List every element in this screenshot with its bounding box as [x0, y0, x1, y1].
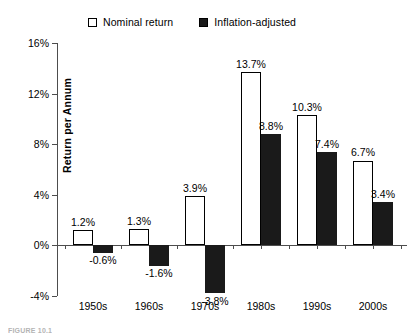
- x-tick: [345, 245, 346, 249]
- figure-caption: FIGURE 10.1: [8, 327, 52, 333]
- y-tick-label-8: 8%: [34, 139, 49, 150]
- x-axis-label-2000s: 2000s: [359, 301, 388, 312]
- x-tick-minor: [317, 245, 318, 249]
- x-tick-minor: [373, 245, 374, 249]
- bar-label-adjusted-1990s: 7.4%: [315, 139, 339, 150]
- bar-nominal-1980s: [241, 72, 261, 245]
- x-tick: [177, 245, 178, 249]
- y-tick-8: 8%: [52, 144, 57, 145]
- x-tick-minor: [261, 245, 262, 249]
- x-axis-label-1970s: 1970s: [191, 301, 220, 312]
- x-axis-label-1950s: 1950s: [79, 301, 108, 312]
- bar-nominal-1950s: [73, 230, 93, 245]
- x-tick: [289, 245, 290, 249]
- chart-legend: Nominal return Inflation-adjusted: [88, 14, 296, 30]
- bar-nominal-1970s: [185, 196, 205, 245]
- x-tick: [65, 245, 66, 249]
- y-tick-label-neg4: -4%: [30, 291, 49, 302]
- x-tick: [233, 245, 234, 249]
- bar-adjusted-1990s: [317, 152, 337, 246]
- y-tick-label-16: 16%: [28, 38, 49, 49]
- y-tick-12: 12%: [52, 94, 57, 95]
- y-axis-line: [57, 43, 58, 296]
- bar-label-adjusted-1960s: -1.6%: [145, 268, 172, 279]
- y-tick-label-0: 0%: [34, 240, 49, 251]
- plot-area: Return per Annum 16% 12% 8% 4% 0% -4%: [57, 43, 407, 296]
- bar-adjusted-1950s: [93, 245, 113, 253]
- y-axis-title: Return per Annum: [61, 78, 73, 173]
- bar-label-nominal-1970s: 3.9%: [183, 183, 207, 194]
- bar-label-nominal-1960s: 1.3%: [127, 216, 151, 227]
- bar-label-nominal-1990s: 10.3%: [292, 102, 322, 113]
- bar-adjusted-1970s: [205, 245, 225, 293]
- bar-label-adjusted-2000s: 3.4%: [371, 189, 395, 200]
- bar-label-nominal-1950s: 1.2%: [71, 217, 95, 228]
- x-tick: [401, 245, 402, 249]
- open-square-icon: [88, 18, 97, 27]
- bar-label-adjusted-1950s: -0.6%: [89, 255, 116, 266]
- x-tick: [121, 245, 122, 249]
- y-tick-16: 16%: [52, 43, 57, 44]
- y-tick-neg4: -4%: [52, 296, 57, 297]
- x-axis-label-1990s: 1990s: [303, 301, 332, 312]
- y-tick-label-12: 12%: [28, 88, 49, 99]
- legend-label-inflation-adjusted: Inflation-adjusted: [214, 17, 296, 28]
- y-tick-label-4: 4%: [34, 189, 49, 200]
- x-axis-label-1980s: 1980s: [247, 301, 276, 312]
- x-axis-label-1960s: 1960s: [135, 301, 164, 312]
- return-per-annum-bar-chart: Nominal return Inflation-adjusted Return…: [0, 0, 415, 333]
- bar-label-nominal-1980s: 13.7%: [236, 59, 266, 70]
- legend-item-nominal-return: Nominal return: [88, 14, 173, 30]
- bar-nominal-2000s: [353, 161, 373, 246]
- bar-adjusted-1960s: [149, 245, 169, 265]
- bar-label-nominal-2000s: 6.7%: [351, 147, 375, 158]
- filled-square-icon: [199, 18, 208, 27]
- bar-adjusted-2000s: [373, 202, 393, 245]
- legend-label-nominal-return: Nominal return: [103, 17, 173, 28]
- bar-nominal-1990s: [297, 115, 317, 245]
- y-tick-4: 4%: [52, 195, 57, 196]
- bar-label-adjusted-1980s: 8.8%: [259, 121, 283, 132]
- bar-adjusted-1980s: [261, 134, 281, 245]
- bar-nominal-1960s: [129, 229, 149, 245]
- legend-item-inflation-adjusted: Inflation-adjusted: [199, 14, 296, 30]
